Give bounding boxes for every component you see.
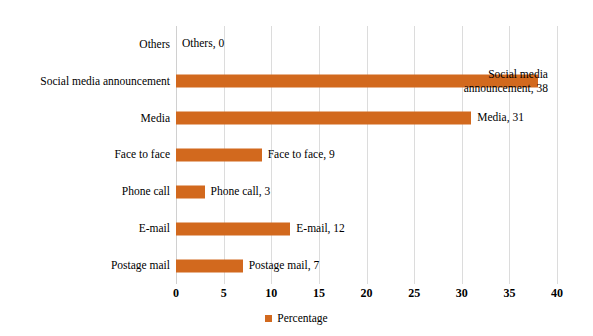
bar-data-label: Postage mail, 7 (243, 259, 320, 273)
bar-row[interactable]: Postage mail, 7 (176, 247, 557, 284)
bar-row[interactable]: Social media announcement, 38 (176, 63, 557, 100)
category-label: Others (0, 26, 170, 63)
category-label: Postage mail (0, 247, 170, 284)
plot-area: Others, 0Social media announcement, 38Me… (176, 26, 557, 284)
category-label: Face to face (0, 137, 170, 174)
x-tick-label: 10 (265, 286, 277, 301)
bar[interactable] (176, 148, 262, 161)
bar-data-label: Phone call, 3 (205, 185, 271, 199)
x-axis-ticks: 0510152025303540 (176, 284, 557, 306)
bar-data-label: Media, 31 (471, 111, 524, 125)
category-label: Social media announcement (0, 63, 170, 100)
legend-swatch-icon (265, 315, 272, 322)
bar[interactable] (176, 185, 205, 198)
category-label: Phone call (0, 173, 170, 210)
gridline-40 (557, 26, 558, 284)
x-tick-label: 0 (173, 286, 179, 301)
category-label: Media (0, 100, 170, 137)
x-tick-label: 20 (361, 286, 373, 301)
category-label: E-mail (0, 210, 170, 247)
x-tick-label: 30 (456, 286, 468, 301)
bar-data-label: Others, 0 (176, 38, 224, 52)
x-tick-label: 15 (313, 286, 325, 301)
x-tick-label: 40 (551, 286, 563, 301)
bar-data-label: Face to face, 9 (262, 148, 335, 162)
bar-row[interactable]: Phone call, 3 (176, 173, 557, 210)
bar-data-label: E-mail, 12 (290, 222, 345, 236)
bar-row[interactable]: E-mail, 12 (176, 210, 557, 247)
bar[interactable] (176, 112, 471, 125)
x-tick-label: 5 (221, 286, 227, 301)
bar-data-label: Social media announcement, 38 (446, 68, 548, 95)
category-axis-labels: OthersSocial media announcementMediaFace… (0, 26, 170, 284)
bar[interactable] (176, 222, 290, 235)
bar-row[interactable]: Face to face, 9 (176, 137, 557, 174)
bar-row[interactable]: Media, 31 (176, 100, 557, 137)
chart-legend: Percentage (0, 312, 593, 324)
x-tick-label: 25 (408, 286, 420, 301)
bar-row[interactable]: Others, 0 (176, 26, 557, 63)
legend-label: Percentage (277, 312, 327, 324)
bar-chart: Others, 0Social media announcement, 38Me… (0, 0, 593, 336)
bar[interactable] (176, 259, 243, 272)
x-tick-label: 35 (503, 286, 515, 301)
bar-rows: Others, 0Social media announcement, 38Me… (176, 26, 557, 284)
